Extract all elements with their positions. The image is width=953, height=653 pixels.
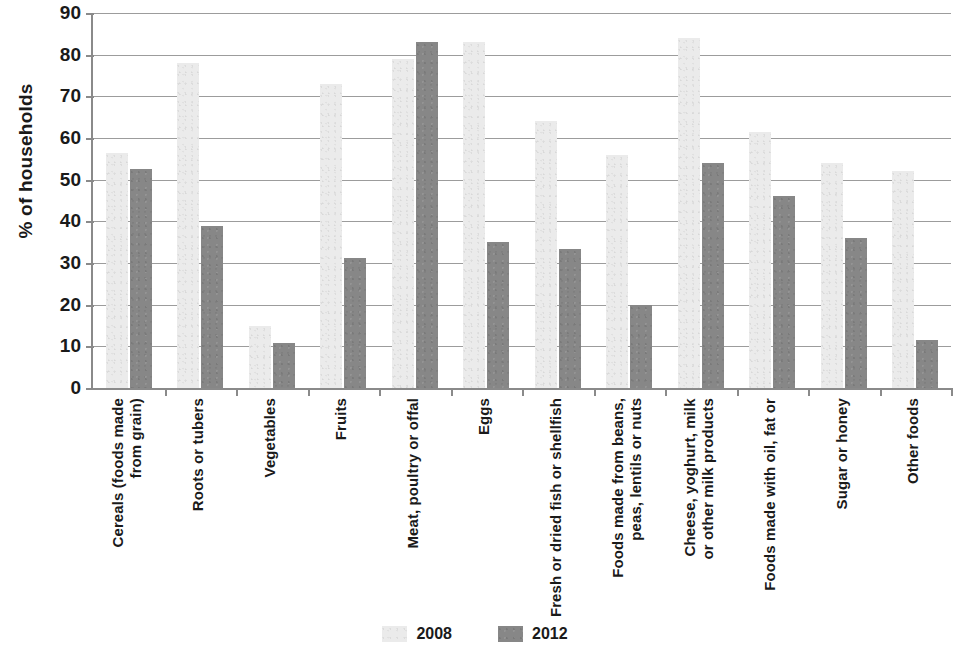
gridline (93, 13, 951, 14)
plot-area: 0102030405060708090 (91, 13, 951, 390)
y-axis-tick-mark (86, 96, 94, 98)
bar-2008 (106, 153, 128, 388)
x-axis-category-label: Fresh or dried fish or shellfish (547, 398, 565, 617)
bar-2008 (821, 163, 843, 388)
y-axis-title: % of households (15, 51, 37, 271)
y-axis-tick-label: 0 (70, 377, 81, 399)
chart-legend: 20082012 (0, 625, 950, 643)
bar-2012 (845, 238, 867, 388)
x-axis-category-label: Foods made from beans, peas, lentils or … (609, 398, 646, 578)
x-axis-category-label: Roots or tubers (189, 398, 207, 511)
y-axis-tick-label: 70 (60, 85, 81, 107)
x-axis-tick-mark (165, 388, 167, 396)
gridline (93, 55, 951, 56)
x-axis-category-label: Cheese, yoghurt, milk or other milk prod… (680, 398, 717, 559)
legend-label: 2012 (532, 625, 568, 643)
x-axis-category-label: Sugar or honey (833, 398, 851, 509)
x-axis-tick-mark (308, 388, 310, 396)
bar-2008 (535, 121, 557, 388)
y-axis-tick-label: 60 (60, 127, 81, 149)
bar-2012 (702, 163, 724, 388)
x-axis-tick-mark (737, 388, 739, 396)
bar-2012 (201, 226, 223, 389)
gridline (93, 96, 951, 97)
legend-entry: 2012 (498, 625, 568, 643)
bar-2012 (630, 305, 652, 388)
x-axis-tick-mark (522, 388, 524, 396)
x-axis-tick-mark (236, 388, 238, 396)
y-axis-tick-mark (86, 221, 94, 223)
bar-2012 (344, 258, 366, 388)
x-axis-tick-mark (665, 388, 667, 396)
bar-2012 (273, 343, 295, 388)
bar-2008 (606, 155, 628, 388)
y-axis-tick-label: 50 (60, 169, 81, 191)
bar-2012 (130, 169, 152, 388)
bar-2008 (678, 38, 700, 388)
y-axis-tick-label: 30 (60, 252, 81, 274)
y-axis-tick-mark (86, 180, 94, 182)
x-axis-tick-mark (451, 388, 453, 396)
y-axis-tick-mark (86, 13, 94, 15)
bar-2012 (916, 340, 938, 388)
bar-2008 (249, 326, 271, 389)
y-axis-tick-mark (86, 388, 94, 390)
bar-2008 (892, 171, 914, 388)
x-axis-category-label: Vegetables (261, 398, 279, 477)
x-axis-tick-mark (880, 388, 882, 396)
bar-2012 (559, 249, 581, 388)
y-axis-tick-label: 20 (60, 294, 81, 316)
bar-2012 (773, 196, 795, 388)
y-axis-tick-mark (86, 138, 94, 140)
bar-2008 (463, 42, 485, 388)
x-axis-category-label: Other foods (904, 398, 922, 484)
legend-label: 2008 (416, 625, 452, 643)
y-axis-tick-label: 10 (60, 335, 81, 357)
y-axis-tick-mark (86, 263, 94, 265)
y-axis-tick-label: 90 (60, 2, 81, 24)
x-axis-category-label: Meat, poultry or offal (404, 398, 422, 549)
y-axis-tick-label: 80 (60, 44, 81, 66)
y-axis-tick-mark (86, 346, 94, 348)
x-axis-category-label: Eggs (475, 398, 493, 435)
x-axis-category-label: Foods made with oil, fat or (761, 398, 779, 591)
bar-2008 (177, 63, 199, 388)
y-axis-tick-label: 40 (60, 210, 81, 232)
y-axis-tick-mark (86, 55, 94, 57)
x-axis-tick-mark (379, 388, 381, 396)
legend-swatch-icon (498, 626, 523, 642)
legend-swatch-icon (382, 626, 407, 642)
bar-2012 (416, 42, 438, 388)
legend-entry: 2008 (382, 625, 452, 643)
gridline (93, 138, 951, 139)
bar-2008 (392, 59, 414, 388)
x-axis-category-label: Fruits (332, 398, 350, 440)
bar-2012 (487, 242, 509, 388)
bar-2008 (749, 132, 771, 388)
x-axis-tick-mark (808, 388, 810, 396)
x-axis-tick-mark (594, 388, 596, 396)
x-axis-category-label: Cereals (foods made from grain) (108, 398, 145, 547)
bar-2008 (320, 84, 342, 388)
y-axis-tick-mark (86, 305, 94, 307)
